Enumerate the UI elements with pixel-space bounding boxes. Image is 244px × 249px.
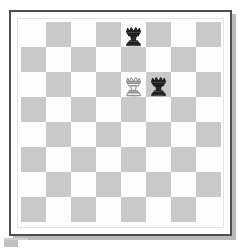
- board-square-g3[interactable]: [171, 147, 196, 172]
- board-grid[interactable]: [21, 22, 221, 222]
- board-square-d5[interactable]: [96, 97, 121, 122]
- board-square-e7[interactable]: [121, 47, 146, 72]
- board-square-d8[interactable]: [96, 22, 121, 47]
- board-square-d4[interactable]: [96, 122, 121, 147]
- board-square-e1[interactable]: [121, 197, 146, 222]
- chess-board-screenshot: [0, 0, 244, 249]
- board-square-g7[interactable]: [171, 47, 196, 72]
- board-square-a5[interactable]: [21, 97, 46, 122]
- board-square-a7[interactable]: [21, 47, 46, 72]
- board-square-f1[interactable]: [146, 197, 171, 222]
- board-square-c5[interactable]: [71, 97, 96, 122]
- white-queen-icon[interactable]: [121, 74, 146, 99]
- board-square-g6[interactable]: [171, 72, 196, 97]
- board-square-f2[interactable]: [146, 172, 171, 197]
- board-square-b1[interactable]: [46, 197, 71, 222]
- board-square-c1[interactable]: [71, 197, 96, 222]
- board-square-h6[interactable]: [196, 72, 221, 97]
- board-square-b6[interactable]: [46, 72, 71, 97]
- board-square-g5[interactable]: [171, 97, 196, 122]
- black-queen-icon[interactable]: [121, 24, 146, 49]
- board-square-g8[interactable]: [171, 22, 196, 47]
- board-square-h5[interactable]: [196, 97, 221, 122]
- board-square-b4[interactable]: [46, 122, 71, 147]
- board-square-h1[interactable]: [196, 197, 221, 222]
- board-square-a4[interactable]: [21, 122, 46, 147]
- board-square-f3[interactable]: [146, 147, 171, 172]
- board-square-b5[interactable]: [46, 97, 71, 122]
- board-square-g1[interactable]: [171, 197, 196, 222]
- board-square-c2[interactable]: [71, 172, 96, 197]
- board-square-b2[interactable]: [46, 172, 71, 197]
- board-square-g4[interactable]: [171, 122, 196, 147]
- board-square-e5[interactable]: [121, 97, 146, 122]
- board-square-e3[interactable]: [121, 147, 146, 172]
- board-square-c7[interactable]: [71, 47, 96, 72]
- board-square-f4[interactable]: [146, 122, 171, 147]
- board-square-c6[interactable]: [71, 72, 96, 97]
- board-square-c8[interactable]: [71, 22, 96, 47]
- board-square-a6[interactable]: [21, 72, 46, 97]
- board-square-d1[interactable]: [96, 197, 121, 222]
- board-square-h4[interactable]: [196, 122, 221, 147]
- taskbar-fragment-artifact: [4, 240, 18, 247]
- board-square-f7[interactable]: [146, 47, 171, 72]
- board-square-b7[interactable]: [46, 47, 71, 72]
- board-square-e4[interactable]: [121, 122, 146, 147]
- board-square-e8[interactable]: [121, 22, 146, 47]
- board-square-a8[interactable]: [21, 22, 46, 47]
- board-square-d3[interactable]: [96, 147, 121, 172]
- board-square-e6[interactable]: [121, 72, 146, 97]
- board-square-b3[interactable]: [46, 147, 71, 172]
- board-square-h8[interactable]: [196, 22, 221, 47]
- board-square-d2[interactable]: [96, 172, 121, 197]
- board-square-h3[interactable]: [196, 147, 221, 172]
- board-square-c4[interactable]: [71, 122, 96, 147]
- board-square-f5[interactable]: [146, 97, 171, 122]
- board-square-a3[interactable]: [21, 147, 46, 172]
- board-square-e2[interactable]: [121, 172, 146, 197]
- black-queen-icon[interactable]: [146, 74, 171, 99]
- board-square-h2[interactable]: [196, 172, 221, 197]
- board-square-b8[interactable]: [46, 22, 71, 47]
- board-square-c3[interactable]: [71, 147, 96, 172]
- board-inner-border: [17, 18, 224, 228]
- board-square-a2[interactable]: [21, 172, 46, 197]
- board-square-a1[interactable]: [21, 197, 46, 222]
- board-square-h7[interactable]: [196, 47, 221, 72]
- board-square-f8[interactable]: [146, 22, 171, 47]
- board-square-d7[interactable]: [96, 47, 121, 72]
- board-frame: [9, 10, 232, 236]
- board-square-d6[interactable]: [96, 72, 121, 97]
- board-square-g2[interactable]: [171, 172, 196, 197]
- board-square-f6[interactable]: [146, 72, 171, 97]
